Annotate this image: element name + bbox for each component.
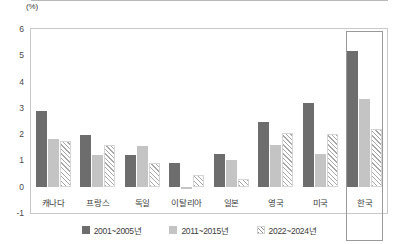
bar [214,154,225,187]
bar [104,145,115,187]
x-axis-label-2: 독일 [120,196,165,208]
y-axis-tick: 2 [4,129,24,139]
bar [347,51,358,186]
bar-group-1 [76,29,121,213]
y-axis-tick: -1 [4,208,24,218]
bar [238,179,249,187]
bar-chart: (%) 6543210-1 캐나다프랑스독일이탈리아일본영국미국한국 2001~… [0,0,398,244]
x-axis-label-3: 이탈리아 [165,196,210,208]
bar [137,146,148,187]
bar [60,141,71,187]
bar-group-5 [254,29,299,213]
legend-swatch-icon [257,226,265,234]
bar [327,134,338,187]
bar [80,135,91,186]
bar-group-4 [209,29,254,213]
bar [48,139,59,186]
bar [270,145,281,187]
bar [303,103,314,187]
y-axis-tick: 0 [4,182,24,192]
legend-item-1[interactable]: 2011~2015년 [169,224,228,236]
bar-group-3 [165,29,210,213]
x-axis-label-0: 캐나다 [31,196,76,208]
bar [282,133,293,187]
bar [226,160,237,186]
y-axis-tick: 5 [4,50,24,60]
legend-label: 2022~2024년 [269,224,317,236]
bar-group-7 [343,29,388,213]
bar [193,175,204,187]
bar-group-6 [298,29,343,213]
legend-swatch-icon [169,226,177,234]
bar [371,129,382,187]
x-axis-label-4: 일본 [209,196,254,208]
legend-label: 2011~2015년 [181,224,228,236]
bar-group-0 [31,29,76,213]
y-axis-tick: 3 [4,103,24,113]
bar [169,163,180,187]
bar [258,122,269,186]
chart-legend: 2001~2005년2011~2015년2022~2024년 [0,224,398,236]
x-axis-label-1: 프랑스 [76,196,121,208]
x-axis-label-5: 영국 [254,196,299,208]
x-axis-label-7: 한국 [343,196,388,208]
bar [149,163,160,187]
legend-swatch-icon [82,226,90,234]
legend-label: 2001~2005년 [94,224,142,236]
bar [181,187,192,190]
bar [36,111,47,187]
bars-layer [31,29,387,213]
bar [359,99,370,187]
legend-item-0[interactable]: 2001~2005년 [82,224,142,236]
y-axis-tick: 4 [4,77,24,87]
x-axis-label-6: 미국 [298,196,343,208]
bar-group-2 [120,29,165,213]
legend-item-2[interactable]: 2022~2024년 [257,224,317,236]
y-axis-tick: 1 [4,155,24,165]
y-axis-unit-label: (%) [26,2,38,11]
bar [125,155,136,187]
bar [315,154,326,187]
y-axis-tick: 6 [4,24,24,34]
zero-baseline [31,0,388,1]
bar [92,155,103,187]
